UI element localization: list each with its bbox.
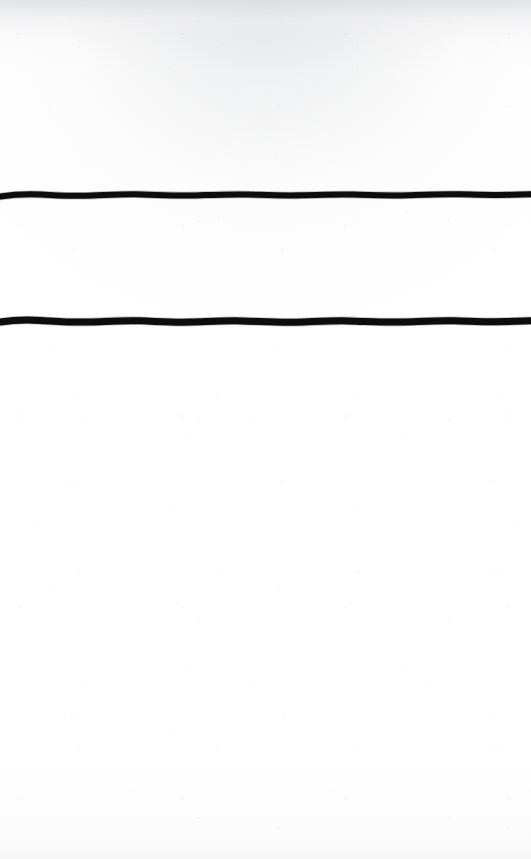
region-above-upper-rule — [0, 0, 531, 186]
region-below-lower-rule — [0, 332, 531, 859]
region-between-rules — [0, 204, 531, 314]
scanned-page — [0, 0, 531, 859]
